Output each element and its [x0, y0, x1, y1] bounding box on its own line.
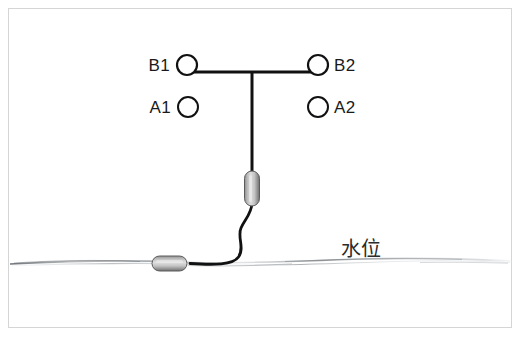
horizontal-capsule-sensor[interactable] [152, 256, 187, 271]
terminal-label-a1: A1 [150, 98, 171, 117]
terminal-circle-a1[interactable] [178, 97, 198, 117]
terminal-circle-b1[interactable] [177, 55, 197, 75]
figure-frame [9, 9, 512, 328]
waterline-label: 水位 [341, 237, 381, 261]
terminal-label-a2: A2 [334, 98, 355, 117]
figure-root: B1 B2 A1 A2 水位 [0, 0, 528, 344]
water-level-sensor-diagram: B1 B2 A1 A2 水位 [0, 0, 528, 344]
horizontal-capsule-body[interactable] [152, 256, 187, 271]
vertical-capsule-sensor[interactable] [245, 171, 260, 206]
terminal-circle-a2[interactable] [308, 97, 328, 117]
horizontal-capsule-gloss [156, 260, 183, 263]
terminal-label-b2: B2 [334, 56, 355, 75]
vertical-capsule-gloss [249, 175, 252, 202]
terminal-circle-b2[interactable] [308, 55, 328, 75]
terminal-label-b1: B1 [149, 56, 170, 75]
